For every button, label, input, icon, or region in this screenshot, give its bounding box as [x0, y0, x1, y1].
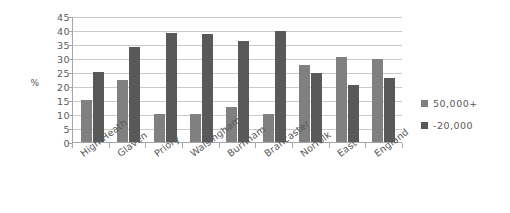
bar-group: [147, 17, 183, 142]
x-axis-tick: [219, 143, 220, 148]
x-axis-tick: [182, 143, 183, 148]
chart-legend: 50,000+-20,000: [421, 92, 507, 136]
bar: [166, 33, 177, 142]
x-axis-category-labels: High HeathGlavenPrioryWalsinghamBurnhamB…: [72, 150, 412, 213]
x-axis-tick: [109, 143, 110, 148]
legend-label: 50,000+: [433, 98, 478, 109]
y-axis-zero-label: 0: [44, 138, 70, 149]
y-axis-tick-labels: 45403530252015105: [44, 17, 70, 143]
bar-group: [74, 17, 110, 142]
legend-label: -20,000: [433, 120, 473, 131]
bar: [202, 34, 213, 142]
bar: [190, 114, 201, 142]
bar: [348, 85, 359, 142]
x-axis-tick: [72, 143, 73, 148]
x-axis-tick: [329, 143, 330, 148]
legend-swatch-icon: [421, 100, 428, 107]
bar-group: [329, 17, 365, 142]
bar: [275, 31, 286, 142]
bar-group: [366, 17, 402, 142]
bar-chart: % 45403530252015105 0 High HeathGlavenPr…: [0, 0, 510, 213]
bar: [372, 59, 383, 142]
x-axis-tick: [292, 143, 293, 148]
bar-group: [183, 17, 219, 142]
x-axis-tick: [145, 143, 146, 148]
bar: [238, 41, 249, 142]
legend-swatch-icon: [421, 122, 428, 129]
bar: [129, 47, 140, 142]
legend-item[interactable]: -20,000: [421, 114, 507, 136]
bar: [81, 100, 92, 142]
x-axis-tick: [255, 143, 256, 148]
legend-item[interactable]: 50,000+: [421, 92, 507, 114]
x-axis-tick: [402, 143, 403, 148]
bar: [336, 57, 347, 142]
bar: [154, 114, 165, 142]
x-axis-tick: [365, 143, 366, 148]
